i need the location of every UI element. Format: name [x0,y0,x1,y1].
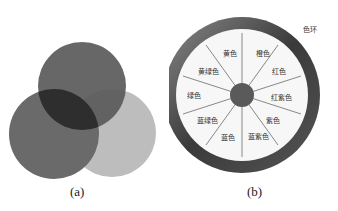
segment-label-red-violet: 红紫色 [271,92,292,102]
center-hub [230,83,254,107]
ring-label: 色环 [303,24,317,34]
segment-label-yellow: 黄色 [223,48,237,58]
overlapping-circles-diagram [0,0,169,211]
figure-b-color-wheel: 黄色 橙色 红色 红紫色 紫色 蓝紫色 蓝色 蓝绿色 绿色 黄绿色 色环 (b) [169,0,338,211]
caption-a: (a) [70,184,84,200]
segment-label-yellow-green: 黄绿色 [198,66,219,76]
segment-label-red: 红色 [272,66,286,76]
segment-label-blue-violet: 蓝紫色 [248,131,269,141]
segment-label-green: 绿色 [187,90,201,100]
segment-label-violet: 紫色 [266,115,280,125]
figure-a-additive-color-circles: (a) [0,0,169,211]
segment-label-orange: 橙色 [256,48,270,58]
caption-b: (b) [247,184,262,200]
segment-label-blue-green: 蓝绿色 [197,115,218,125]
segment-label-blue: 蓝色 [221,132,235,142]
